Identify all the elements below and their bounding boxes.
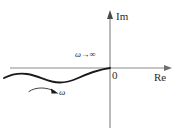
real-axis-label: Re [154, 72, 166, 83]
omega-to-infinity-annotation: ω→∞ [75, 50, 96, 59]
omega-direction-label: ω [59, 88, 65, 97]
plot-canvas [0, 0, 178, 135]
nyquist-locus-curve [4, 68, 110, 83]
omega-arrow-head [51, 89, 59, 94]
imaginary-axis-label: Im [116, 11, 128, 22]
omega-arrow-shaft [29, 88, 55, 92]
origin-label: 0 [112, 70, 118, 81]
omega-direction-arrow-icon [29, 88, 59, 94]
real-axis [10, 65, 172, 71]
nyquist-plot-figure: Im Re 0 ω→∞ ω [0, 0, 178, 135]
right-arrow-icon: → [81, 49, 90, 59]
imaginary-axis-arrow-icon [107, 10, 113, 19]
infinity-symbol: ∞ [90, 49, 96, 59]
